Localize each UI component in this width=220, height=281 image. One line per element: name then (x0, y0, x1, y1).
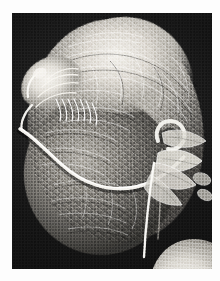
micrograph-image (12, 13, 212, 269)
caption-area (0, 270, 220, 281)
page (0, 0, 220, 281)
micrograph-plate (12, 13, 212, 269)
film-grain (12, 13, 212, 269)
